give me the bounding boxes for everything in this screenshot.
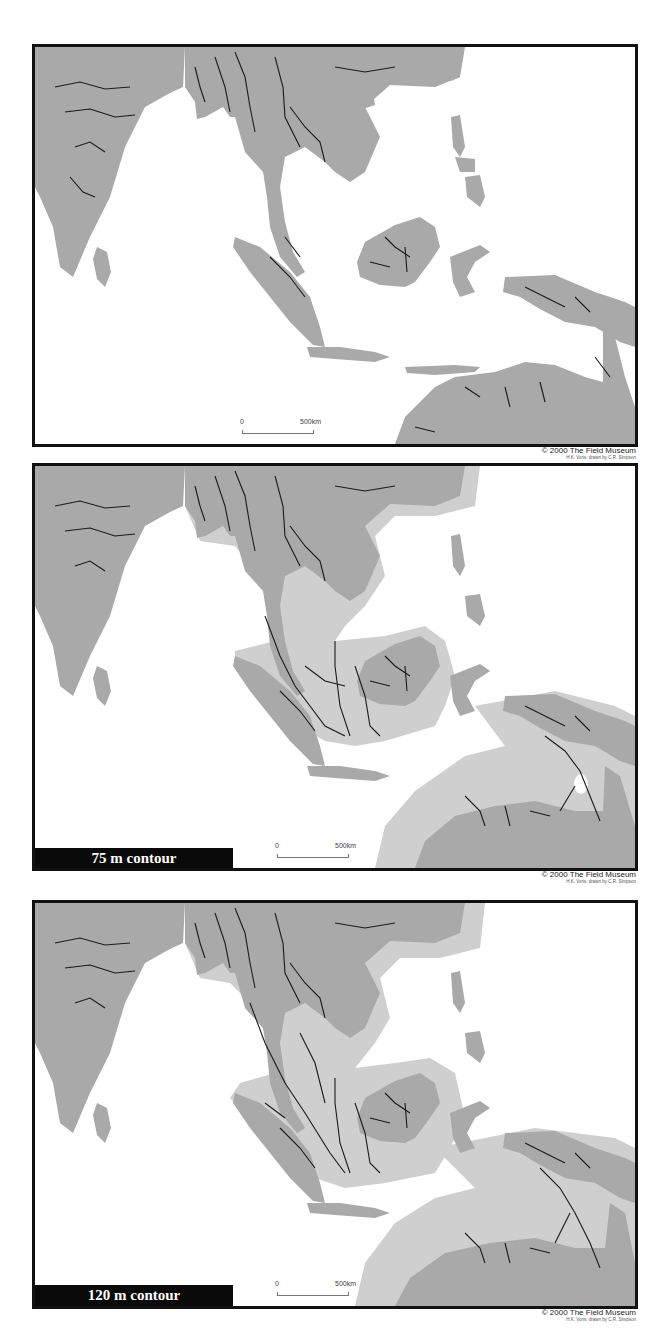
scale-zero-label: 0 bbox=[240, 418, 244, 425]
land-masses bbox=[35, 47, 635, 444]
map-panel-present: 0 500km bbox=[32, 44, 638, 447]
scale-zero-label: 0 bbox=[275, 1280, 279, 1287]
credit-present: © 2000 The Field Museum H.K. Voris; draw… bbox=[542, 446, 636, 461]
author-text: H.K. Voris; drawn by C.R. Simpson bbox=[542, 879, 636, 885]
scale-bar-line bbox=[277, 1292, 349, 1296]
credit-120m: © 2000 The Field Museum H.K. Voris; draw… bbox=[542, 1308, 636, 1323]
lake-carpentaria bbox=[574, 774, 588, 794]
author-text: H.K. Voris; drawn by C.R. Simpson bbox=[542, 1317, 636, 1323]
map-120m bbox=[35, 903, 635, 1306]
scale-bar: 0 500km bbox=[275, 842, 365, 864]
map-panel-75m: 75 m contour 0 500km bbox=[32, 463, 638, 871]
scale-bar-line bbox=[277, 854, 349, 858]
author-text: H.K. Voris; drawn by C.R. Simpson bbox=[542, 455, 636, 461]
copyright-text: © 2000 The Field Museum bbox=[542, 1308, 636, 1317]
scale-bar: 0 500km bbox=[275, 1280, 365, 1302]
contour-label-120m: 120 m contour bbox=[35, 1285, 233, 1306]
credit-75m: © 2000 The Field Museum H.K. Voris; draw… bbox=[542, 870, 636, 885]
scale-bar-line bbox=[242, 430, 314, 434]
scale-distance-label: 500km bbox=[335, 1280, 356, 1287]
map-75m bbox=[35, 466, 635, 868]
scale-zero-label: 0 bbox=[275, 842, 279, 849]
contour-label-75m: 75 m contour bbox=[35, 848, 233, 868]
scale-distance-label: 500km bbox=[335, 842, 356, 849]
map-present bbox=[35, 47, 635, 444]
map-panel-120m: 120 m contour 0 500km bbox=[32, 900, 638, 1309]
scale-bar: 0 500km bbox=[240, 418, 330, 440]
copyright-text: © 2000 The Field Museum bbox=[542, 446, 636, 455]
copyright-text: © 2000 The Field Museum bbox=[542, 870, 636, 879]
scale-distance-label: 500km bbox=[300, 418, 321, 425]
